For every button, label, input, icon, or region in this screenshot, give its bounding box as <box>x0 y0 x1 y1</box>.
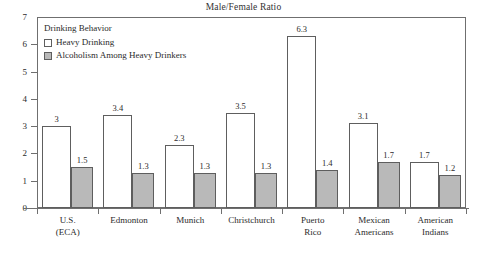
bar-heavy-drinking <box>165 145 194 208</box>
bar-heavy-drinking <box>42 126 71 208</box>
legend-title: Drinking Behavior <box>44 22 239 35</box>
bar-heavy-drinking <box>226 113 255 209</box>
bar-heavy-drinking <box>287 36 316 208</box>
bar-alcoholism <box>439 175 461 208</box>
bar-alcoholism <box>132 173 154 208</box>
bar-value-label: 1.7 <box>404 151 445 160</box>
bar-value-label: 3.4 <box>97 104 138 113</box>
legend-item-label: Heavy Drinking <box>56 37 114 48</box>
bar-value-label: 1.3 <box>249 162 283 171</box>
bar-alcoholism <box>255 173 277 208</box>
bar-value-label: 1.2 <box>433 164 467 173</box>
bar-value-label: 1.3 <box>188 162 222 171</box>
bar-chart: Male/Female Ratio 76543210 31.53.41.32.3… <box>0 0 487 263</box>
bar-alcoholism <box>316 170 338 208</box>
legend-item-label: Alcoholism Among Heavy Drinkers <box>56 50 186 61</box>
bar-value-label: 1.7 <box>372 151 406 160</box>
legend-item-heavy-drinking: Heavy Drinking <box>44 36 239 49</box>
x-axis-category-label: AmericanIndians <box>399 215 472 238</box>
bar-value-label: 6.3 <box>281 25 322 34</box>
bar-alcoholism <box>71 167 93 208</box>
bar-value-label: 2.3 <box>159 134 200 143</box>
bar-alcoholism <box>194 173 216 208</box>
bar-alcoholism <box>378 162 400 208</box>
bar-value-label: 1.5 <box>65 156 99 165</box>
bar-value-label: 1.3 <box>126 162 160 171</box>
chart-legend: Drinking Behavior Heavy Drinking Alcohol… <box>44 22 239 62</box>
legend-item-alcoholism: Alcoholism Among Heavy Drinkers <box>44 49 239 62</box>
bar-heavy-drinking <box>349 123 378 208</box>
legend-swatch-light-icon <box>44 39 52 47</box>
bar-value-label: 1.4 <box>310 159 344 168</box>
bar-value-label: 3.5 <box>220 102 261 111</box>
bar-value-label: 3 <box>36 115 77 124</box>
legend-swatch-dark-icon <box>44 52 52 60</box>
bar-value-label: 3.1 <box>343 112 384 121</box>
